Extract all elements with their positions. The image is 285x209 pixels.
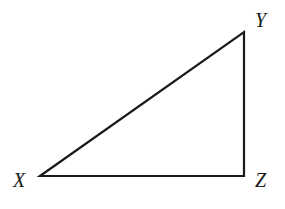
triangle-diagram: X Y Z	[0, 0, 285, 209]
triangle-xyz	[40, 32, 244, 176]
vertex-label-z: Z	[255, 169, 267, 191]
vertex-label-y: Y	[255, 9, 268, 31]
triangle-figure: X Y Z	[0, 0, 285, 209]
vertex-label-x: X	[12, 169, 26, 191]
